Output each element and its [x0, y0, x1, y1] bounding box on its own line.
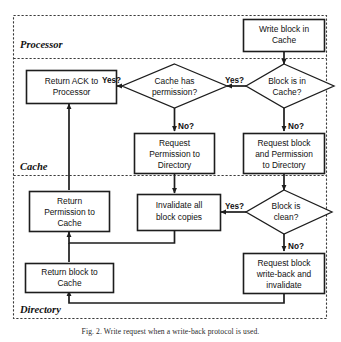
- node-block-in-cache-label-1: Block is in: [268, 76, 306, 86]
- node-return-block-to-cache[interactable]: Return block to Cache: [26, 264, 114, 293]
- figure-canvas: Cache has permission? --> Return ACK to …: [0, 0, 341, 342]
- lane-label-directory: Directory: [19, 304, 61, 315]
- node-return-block-label-2: Cache: [57, 278, 82, 288]
- node-invalidate-all-block-copies[interactable]: Invalidate all block copies: [138, 195, 221, 231]
- lane-label-cache: Cache: [20, 161, 48, 172]
- node-return-ack-label-1: Return ACK to: [45, 76, 99, 86]
- node-cache-permission-label-1: Cache has: [154, 76, 194, 86]
- node-return-permission-to-cache[interactable]: Return Permission to Cache: [30, 192, 110, 232]
- node-write-block-label-2: Cache: [272, 35, 297, 45]
- edge-label-cache-permission-yes: Yes?: [102, 76, 121, 85]
- edge-label-cache-permission-no: No?: [178, 122, 194, 131]
- node-return-ack-label-2: Processor: [53, 87, 91, 97]
- node-request-permission-label-1: Request: [159, 138, 191, 148]
- node-block-is-in-cache[interactable]: Block is in Cache?: [246, 64, 334, 108]
- node-block-clean-label-1: Block is: [272, 201, 301, 211]
- node-block-is-clean[interactable]: Block is clean?: [246, 190, 332, 234]
- node-request-writeback-label-1: Request block: [257, 258, 311, 268]
- node-block-in-cache-label-2: Cache?: [273, 87, 302, 97]
- node-cache-has-permission[interactable]: Cache has permission?: [122, 64, 227, 108]
- edge-label-block-in-cache-yes: Yes?: [225, 76, 244, 85]
- node-return-block-label-1: Return block to: [41, 267, 98, 277]
- node-request-permission-to-directory[interactable]: Request Permission to Directory: [135, 134, 215, 174]
- node-request-block-and-permission[interactable]: Request block and Permission to Director…: [244, 134, 325, 174]
- node-write-block-label-1: Write block in: [259, 24, 309, 34]
- node-return-permission-label-3: Cache: [57, 218, 82, 228]
- node-invalidate-label-2: block copies: [156, 212, 202, 222]
- connector-invalidate-to-returnpermission: [69, 231, 175, 243]
- node-request-writeback-label-3: invalidate: [266, 280, 302, 290]
- node-request-block-permission-label-3: to Directory: [263, 160, 307, 170]
- node-request-block-permission-label-2: and Permission: [255, 149, 313, 159]
- node-return-permission-label-2: Permission to: [44, 207, 95, 217]
- edge-label-block-clean-no: No?: [288, 242, 304, 251]
- node-request-permission-label-3: Directory: [158, 160, 192, 170]
- node-request-block-write-back[interactable]: Request block write-back and invalidate: [244, 254, 325, 294]
- node-request-block-permission-label-1: Request block: [257, 138, 311, 148]
- node-write-block-in-cache[interactable]: Write block in Cache: [244, 20, 325, 52]
- flowchart-svg: Cache has permission? --> Return ACK to …: [0, 0, 341, 342]
- node-request-writeback-label-2: write-back and: [256, 269, 312, 279]
- node-cache-permission-label-2: permission?: [152, 87, 197, 97]
- node-request-permission-label-2: Permission to: [149, 149, 200, 159]
- lane-label-processor: Processor: [20, 39, 63, 50]
- figure-caption: Fig. 2. Write request when a write-back …: [0, 327, 341, 336]
- edge-label-block-clean-yes: Yes?: [225, 202, 244, 211]
- edge-label-block-in-cache-no: No?: [288, 122, 304, 131]
- node-return-permission-label-1: Return: [57, 196, 82, 206]
- node-block-clean-label-2: clean?: [274, 212, 299, 222]
- node-invalidate-label-1: Invalidate all: [156, 200, 203, 210]
